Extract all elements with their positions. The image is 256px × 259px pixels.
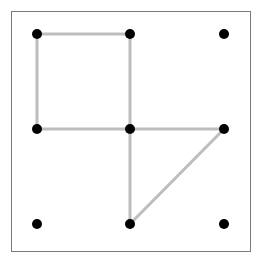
dot-grid-graph [0, 0, 256, 259]
dot-r1c1 [125, 124, 135, 134]
dot-r0c0 [32, 29, 42, 39]
dot-r0c1 [125, 29, 135, 39]
dot-r0c2 [219, 29, 229, 39]
dot-r2c2 [219, 219, 229, 229]
dot-r2c0 [32, 219, 42, 229]
dot-r1c0 [32, 124, 42, 134]
edge-r1c2-r2c1 [130, 129, 224, 224]
dot-r2c1 [125, 219, 135, 229]
dot-r1c2 [219, 124, 229, 134]
